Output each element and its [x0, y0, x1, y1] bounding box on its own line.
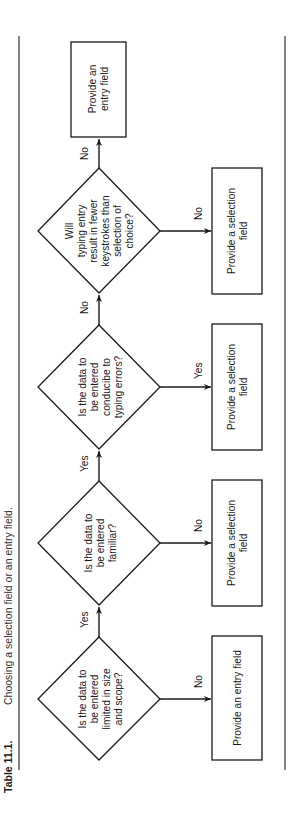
outcome-entry-field-1: Provide an entry field	[212, 636, 262, 760]
svg-text:typing errors?: typing errors?	[113, 356, 124, 419]
svg-text:be entered: be entered	[89, 362, 100, 411]
branch-label-d1-d2: Yes	[79, 611, 90, 628]
branch-label-d3-d4: No	[79, 301, 90, 314]
svg-text:be entered: be entered	[95, 518, 106, 567]
svg-text:field: field	[238, 221, 249, 240]
decision-limited-size-scope: Is the data to be entered limited in siz…	[38, 637, 160, 760]
svg-text:familiar?: familiar?	[107, 523, 118, 562]
svg-text:selection of: selection of	[112, 205, 123, 257]
outcome-selection-field-2: Provide a selection field	[212, 480, 262, 606]
svg-text:field: field	[238, 533, 249, 552]
svg-text:result in fewer: result in fewer	[88, 199, 99, 263]
svg-text:keystrokes than: keystrokes than	[100, 195, 111, 266]
branch-label-d4-o4: No	[193, 207, 204, 220]
svg-text:conducibe to: conducibe to	[101, 358, 112, 416]
branch-label-d3-o3: Yes	[193, 362, 204, 379]
decision-fewer-keystrokes: Will typing entry result in fewer keystr…	[38, 168, 160, 293]
svg-text:Is the data to: Is the data to	[77, 357, 88, 416]
decision-typing-errors: Is the data to be entered conducibe to t…	[38, 325, 160, 449]
outcome-selection-field-4: Provide a selection field	[212, 168, 262, 294]
svg-text:be entered: be entered	[89, 674, 100, 723]
decision-data-familiar: Is the data to be entered familiar?	[38, 481, 160, 605]
svg-text:Is the data to: Is the data to	[77, 669, 88, 728]
svg-text:Will: Will	[64, 223, 75, 239]
svg-text:Is the data to: Is the data to	[83, 513, 94, 572]
branch-label-d4-o5: No	[79, 147, 90, 160]
svg-text:entry field: entry field	[99, 67, 110, 112]
branch-label-d1-o1: No	[193, 675, 204, 688]
svg-text:Provide a selection: Provide a selection	[226, 500, 237, 586]
outcome-selection-field-3: Provide a selection field	[212, 324, 262, 450]
flowchart-canvas: Table 11.1. Choosing a selection field o…	[0, 0, 299, 819]
svg-text:Provide an: Provide an	[87, 65, 98, 114]
caption-title: Choosing a selection field or an entry f…	[2, 507, 14, 705]
svg-text:Provide a selection: Provide a selection	[226, 188, 237, 274]
branch-label-d2-o2: No	[193, 519, 204, 532]
svg-text:and scope?: and scope?	[113, 672, 124, 725]
caption-label: Table 11.1.	[2, 741, 14, 793]
svg-text:typing entry: typing entry	[76, 204, 87, 258]
svg-text:limited in size: limited in size	[101, 668, 112, 729]
outcome-entry-field-5: Provide an entry field	[71, 42, 126, 137]
svg-text:Provide a selection: Provide a selection	[226, 344, 237, 430]
svg-text:Provide an entry field: Provide an entry field	[232, 650, 243, 746]
svg-text:choice?: choice?	[124, 213, 135, 248]
svg-text:field: field	[238, 377, 249, 396]
branch-label-d2-d3: Yes	[79, 455, 90, 472]
table-caption: Table 11.1. Choosing a selection field o…	[2, 507, 14, 793]
